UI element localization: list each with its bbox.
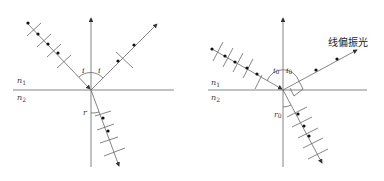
right-refracted-ticks: [287, 107, 328, 159]
left-refracted-ray: [91, 90, 119, 166]
left-refracted-arc: [91, 112, 99, 113]
right-dots: [210, 47, 338, 137]
left-reflected-ray: [91, 24, 157, 90]
right-incident-angle-label: i0: [273, 66, 280, 75]
right-labels: n1 n2 i0 i0 r0 线偏振光: [211, 36, 368, 119]
left-diagram: [13, 18, 174, 167]
left-refracted-angle-label: r: [83, 108, 88, 117]
brewster-angle-diagram: n1 n2 i i r: [0, 0, 384, 181]
right-n1-label: n1: [211, 78, 220, 88]
left-incident-ray: [27, 23, 90, 89]
left-refracted-ticks: [95, 111, 125, 156]
right-reflected-ray: [283, 50, 357, 90]
linearly-polarized-light-label: 线偏振光: [328, 36, 368, 48]
right-refracted-arc: [283, 105, 291, 107]
left-dots: [26, 21, 135, 132]
right-refracted-angle-label: r0: [274, 110, 282, 119]
right-reflected-angle-label: i0: [286, 66, 293, 75]
left-reflected-angle-label: i: [98, 66, 101, 75]
left-incident-angle-label: i: [82, 66, 85, 75]
right-angle-marker: [290, 81, 303, 96]
left-labels: n1 n2 i i r: [17, 66, 101, 117]
right-n2-label: n2: [211, 93, 220, 103]
left-n1-label: n1: [17, 76, 26, 86]
left-n2-label: n2: [17, 93, 26, 103]
right-incident-ticks: [213, 42, 262, 89]
